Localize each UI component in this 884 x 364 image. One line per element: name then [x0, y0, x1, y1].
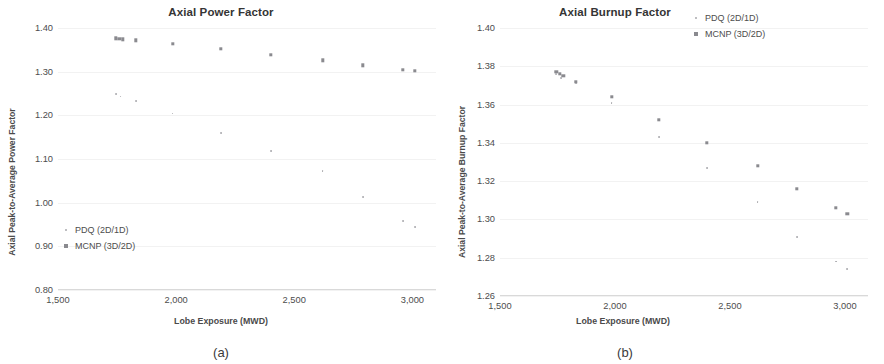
data-point — [560, 77, 562, 79]
y-axis-tick-label: 1.30 — [477, 214, 495, 224]
x-axis-tick-label: 2,500 — [283, 295, 306, 305]
data-point — [796, 236, 798, 238]
y-gridline — [500, 105, 868, 106]
data-point — [413, 69, 416, 72]
legend-item-mcnp: MCNP (3D/2D) — [690, 26, 765, 42]
data-point — [322, 170, 324, 172]
data-point — [611, 102, 613, 104]
data-point — [321, 59, 324, 62]
dot-marker-icon — [690, 17, 702, 19]
y-axis-tick-label: 1.34 — [477, 138, 495, 148]
legend-label-pdq: PDQ (2D/1D) — [72, 225, 129, 235]
y-axis-tick-label: 1.28 — [477, 253, 495, 263]
x-axis-tick-label: 2,000 — [164, 295, 187, 305]
data-point — [705, 141, 708, 144]
y-axis-tick-label: 1.36 — [477, 100, 495, 110]
legend-b: PDQ (2D/1D) MCNP (3D/2D) — [690, 10, 765, 42]
y-gridline — [500, 219, 868, 220]
panel-a: Axial Power Factor Axial Peak-to-Average… — [0, 0, 442, 364]
plot-area-b: 1.261.281.301.321.341.361.381.401,5002,0… — [500, 28, 868, 296]
data-point — [706, 167, 708, 169]
data-point — [120, 96, 122, 98]
data-point — [361, 63, 364, 66]
data-point — [220, 132, 222, 134]
y-gridline — [58, 115, 436, 116]
y-gridline — [58, 28, 436, 29]
x-axis-tick-label: 2,000 — [603, 301, 626, 311]
x-axis-tick-label: 3,000 — [401, 295, 424, 305]
y-gridline — [58, 203, 436, 204]
x-axis-tick-label: 1,500 — [46, 295, 69, 305]
data-point — [134, 39, 137, 42]
data-point — [835, 261, 837, 263]
legend-label-mcnp: MCNP (3D/2D) — [702, 29, 765, 39]
y-gridline — [58, 159, 436, 160]
legend-item-pdq: PDQ (2D/1D) — [60, 222, 135, 238]
data-point — [171, 42, 174, 45]
data-point — [121, 38, 124, 41]
y-axis-tick-label: 1.30 — [35, 67, 53, 77]
legend-a: PDQ (2D/1D) MCNP (3D/2D) — [60, 222, 135, 254]
y-axis-tick-label: 1.40 — [477, 23, 495, 33]
figure-two-panel-scatter: Axial Power Factor Axial Peak-to-Average… — [0, 0, 884, 364]
y-gridline — [500, 28, 868, 29]
data-point — [555, 73, 557, 75]
data-point — [658, 136, 660, 138]
y-gridline — [58, 290, 436, 291]
data-point — [795, 187, 798, 190]
y-axis-label-a: Axial Peak-to-Average Power Factor — [7, 108, 17, 255]
x-axis-tick-label: 3,000 — [833, 301, 856, 311]
y-axis-tick-label: 0.90 — [35, 241, 53, 251]
panel-b: Axial Burnup Factor Axial Peak-to-Averag… — [442, 0, 884, 364]
data-point — [757, 201, 759, 203]
data-point — [135, 100, 137, 102]
y-axis-tick-label: 0.80 — [35, 285, 53, 295]
data-point — [172, 113, 174, 115]
x-axis-label-a: Lobe Exposure (MWD) — [0, 316, 442, 326]
y-gridline — [500, 258, 868, 259]
y-axis-tick-label: 1.38 — [477, 61, 495, 71]
data-point — [610, 95, 613, 98]
data-point — [657, 118, 660, 121]
y-axis-tick-label: 1.00 — [35, 198, 53, 208]
x-axis-tick-label: 1,500 — [488, 301, 511, 311]
legend-item-mcnp: MCNP (3D/2D) — [60, 238, 135, 254]
y-gridline — [500, 66, 868, 67]
x-axis-label-b: Lobe Exposure (MWD) — [402, 316, 844, 326]
data-point — [115, 93, 117, 95]
legend-label-pdq: PDQ (2D/1D) — [702, 13, 759, 23]
y-axis-tick-label: 1.10 — [35, 154, 53, 164]
data-point — [219, 47, 222, 50]
y-axis-tick-label: 1.20 — [35, 110, 53, 120]
data-point — [402, 220, 404, 222]
y-axis-tick-label: 1.26 — [477, 291, 495, 301]
y-gridline — [500, 296, 868, 297]
data-point — [414, 226, 416, 228]
data-point — [756, 164, 759, 167]
y-axis-tick-label: 1.32 — [477, 176, 495, 186]
data-point — [362, 196, 364, 198]
legend-label-mcnp: MCNP (3D/2D) — [72, 241, 135, 251]
data-point — [401, 68, 404, 71]
data-point — [834, 206, 837, 209]
data-point — [846, 268, 848, 270]
y-gridline — [58, 72, 436, 73]
y-gridline — [500, 181, 868, 182]
data-point — [575, 83, 577, 85]
dot-marker-icon — [60, 229, 72, 231]
data-point — [270, 150, 272, 152]
data-point — [269, 53, 272, 56]
panel-caption-b: (b) — [404, 345, 846, 360]
chart-title-b: Axial Burnup Factor — [394, 6, 836, 18]
y-axis-tick-label: 1.40 — [35, 23, 53, 33]
panel-caption-a: (a) — [0, 345, 442, 360]
data-point — [562, 74, 565, 77]
legend-item-pdq: PDQ (2D/1D) — [690, 10, 765, 26]
y-axis-label-b: Axial Peak-to-Average Burnup Factor — [457, 106, 467, 258]
square-marker-icon — [60, 244, 72, 247]
x-axis-tick-label: 2,500 — [718, 301, 741, 311]
data-point — [846, 212, 849, 215]
square-marker-icon — [690, 32, 702, 35]
chart-title-a: Axial Power Factor — [0, 6, 442, 18]
y-gridline — [500, 143, 868, 144]
